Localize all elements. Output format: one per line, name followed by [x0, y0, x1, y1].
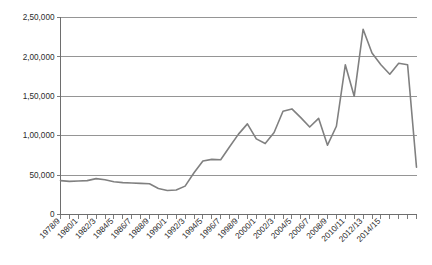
y-tick-label: 1,50,000 [23, 92, 55, 101]
chart-canvas: 050,0001,00,0001,50,0002,00,0002,50,0001… [0, 0, 432, 265]
y-axis-labels: 050,0001,00,0001,50,0002,00,0002,50,000 [23, 13, 55, 219]
line-chart: 050,0001,00,0001,50,0002,00,0002,50,0001… [0, 0, 432, 265]
x-tick-marks [61, 215, 417, 219]
y-tick-label: 2,00,000 [23, 53, 55, 62]
data-series-line [61, 29, 417, 190]
axes-group [61, 17, 417, 215]
y-tick-label: 50,000 [29, 171, 54, 180]
x-axis-labels: 1978/91980/11982/31984/51986/71988/91990… [38, 216, 383, 244]
y-tick-label: 2,50,000 [23, 13, 55, 22]
y-tick-label: 1,00,000 [23, 131, 55, 140]
gridlines-group [57, 18, 417, 215]
